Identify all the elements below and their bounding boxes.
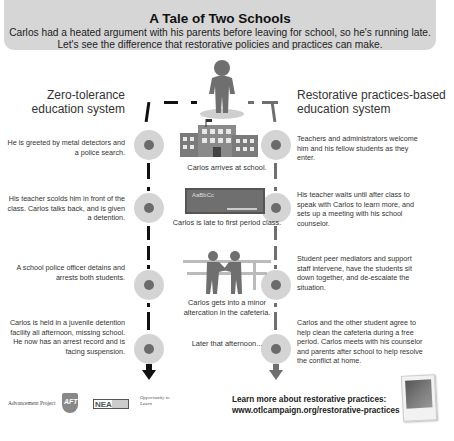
zero-tolerance-step-2: His teacher scolds him in front of the c… [5,194,125,223]
logo-opportunity-to-learn: Opportunity to Learn [140,395,176,407]
learn-more-text: Learn more about restorative practices: … [232,394,400,416]
page-title: A Tale of Two Schools [4,12,436,26]
down-arrow-icon [142,370,156,380]
campaign-url-link[interactable]: www.otlcampaign.org/restorative-practice… [232,405,400,416]
path-segment-left [147,265,150,269]
student-figure-icon [197,58,247,120]
altercation-icon [183,250,271,296]
path-segment-left [147,303,150,307]
down-arrow-icon [269,370,283,380]
path-connector-right [248,101,254,104]
timeline-node-left [134,270,164,300]
path-segment-left [145,102,151,122]
timeline-node-left [134,334,164,364]
path-segment-right [274,226,277,240]
timeline-node-right [261,130,291,160]
timeline-node-left [134,130,164,160]
event-label: Carlos arrives at school. [172,163,282,173]
zero-tolerance-step-4: Carlos is held in a juvenile detention f… [5,318,125,356]
path-segment-right [274,187,277,191]
zero-tolerance-step-1: He is greeted by metal detectors and a p… [5,138,125,157]
path-segment-left [147,312,150,330]
zero-tolerance-step-3: A school police officer detains and arre… [5,263,125,282]
restorative-step-1: Teachers and administrators welcome him … [297,134,427,163]
restorative-step-3: Student peer mediators and support staff… [297,254,427,292]
event-label: Carlos gets into a minor altercation in … [172,298,282,317]
path-segment-right [274,246,277,260]
chalkboard-icon: AaBbCc [185,188,265,214]
path-segment-left [147,163,150,179]
event-label: Carlos is late to first period class. [172,218,282,228]
school-building-icon [180,119,262,159]
restorative-step-4: Carlos and the other student agree to he… [297,318,427,366]
path-segment-right [274,265,277,269]
path-connector-left [164,101,178,104]
restorative-step-2: His teacher waits until after class to s… [297,190,427,228]
logo-aft: AFT [62,393,78,413]
path-segment-left [147,246,150,260]
zero-tolerance-title: Zero-tolerance education system [5,88,125,116]
timeline-node-left [134,193,164,223]
logo-nea: NEA [93,399,129,409]
event-label: Later that afternoon... [177,339,277,349]
logo-advancement-project: Advancement Project [8,400,56,406]
path-connector-left [191,101,197,104]
path-segment-left [147,226,150,240]
restorative-title: Restorative practices-based education sy… [297,88,447,116]
intro-text: Carlos had a heated argument with his pa… [4,27,436,51]
header-banner: A Tale of Two Schools Carlos had a heate… [4,0,436,50]
booklet-thumbnail [401,374,437,422]
path-segment-right [271,102,277,122]
path-segment-left [147,187,150,191]
